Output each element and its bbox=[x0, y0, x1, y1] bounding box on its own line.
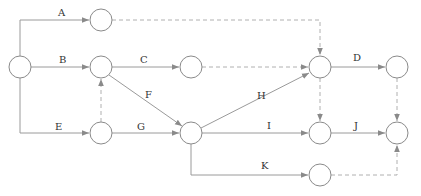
label-k: K bbox=[261, 160, 269, 171]
label-g: G bbox=[137, 121, 145, 132]
node-1 bbox=[9, 56, 31, 78]
node-10 bbox=[386, 122, 408, 144]
activity-h-arrow bbox=[201, 73, 309, 128]
node-4 bbox=[180, 56, 202, 78]
dummy-2-7-arrow bbox=[112, 20, 320, 55]
node-6 bbox=[180, 122, 202, 144]
label-h: H bbox=[257, 90, 266, 101]
node-11 bbox=[309, 164, 331, 186]
label-j: J bbox=[353, 120, 358, 131]
node-8 bbox=[386, 56, 408, 78]
node-9 bbox=[309, 122, 331, 144]
dummy-11-10-arrow bbox=[331, 145, 397, 175]
activity-f-arrow bbox=[109, 75, 182, 126]
label-d: D bbox=[353, 52, 361, 63]
label-c: C bbox=[140, 54, 148, 65]
node-7 bbox=[309, 56, 331, 78]
label-f: F bbox=[145, 89, 152, 100]
label-e: E bbox=[55, 121, 62, 132]
activity-k-arrow bbox=[191, 144, 308, 175]
node-5 bbox=[90, 122, 112, 144]
activity-a-arrow bbox=[20, 20, 89, 56]
node-2 bbox=[90, 9, 112, 31]
label-i: I bbox=[267, 120, 271, 131]
label-b: B bbox=[59, 54, 66, 65]
label-a: A bbox=[57, 7, 66, 18]
network-diagram: A B C D E F G H I J K bbox=[0, 0, 421, 196]
node-3 bbox=[90, 56, 112, 78]
